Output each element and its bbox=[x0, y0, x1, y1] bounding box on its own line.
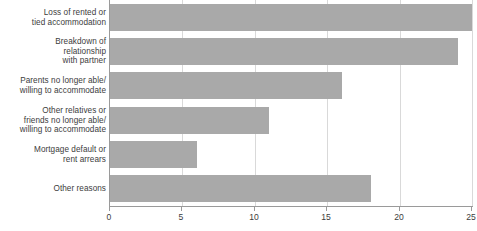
x-tick-mark bbox=[471, 207, 472, 211]
x-tick-mark bbox=[181, 207, 182, 211]
bar bbox=[110, 141, 197, 168]
bar bbox=[110, 4, 472, 31]
x-tick-mark bbox=[399, 207, 400, 211]
x-tick-label: 10 bbox=[249, 212, 259, 222]
plot-area bbox=[110, 0, 472, 206]
category-label: Breakdown of relationship with partner bbox=[0, 37, 106, 66]
x-tick-mark bbox=[109, 207, 110, 211]
x-tick-mark bbox=[254, 207, 255, 211]
x-tick-mark bbox=[326, 207, 327, 211]
y-axis-line bbox=[109, 0, 110, 206]
category-label: Mortgage default or rent arrears bbox=[0, 145, 106, 164]
category-label: Loss of rented or tied accommodation bbox=[0, 8, 106, 27]
category-label: Other relatives or friends no longer abl… bbox=[0, 106, 106, 135]
bar bbox=[110, 38, 458, 65]
x-tick-label: 0 bbox=[107, 212, 112, 222]
x-tick-label: 15 bbox=[321, 212, 331, 222]
bar bbox=[110, 107, 269, 134]
x-axis-line bbox=[109, 206, 473, 207]
x-tick-label: 25 bbox=[466, 212, 476, 222]
bar bbox=[110, 175, 371, 202]
gridline-25 bbox=[472, 0, 473, 206]
category-axis-labels: Loss of rented or tied accommodationBrea… bbox=[0, 0, 106, 206]
x-tick-label: 5 bbox=[179, 212, 184, 222]
category-label: Other reasons bbox=[0, 184, 106, 194]
category-label: Parents no longer able/ willing to accom… bbox=[0, 76, 106, 95]
horizontal-bar-chart: Loss of rented or tied accommodationBrea… bbox=[0, 0, 477, 231]
x-tick-label: 20 bbox=[394, 212, 404, 222]
bar bbox=[110, 72, 342, 99]
